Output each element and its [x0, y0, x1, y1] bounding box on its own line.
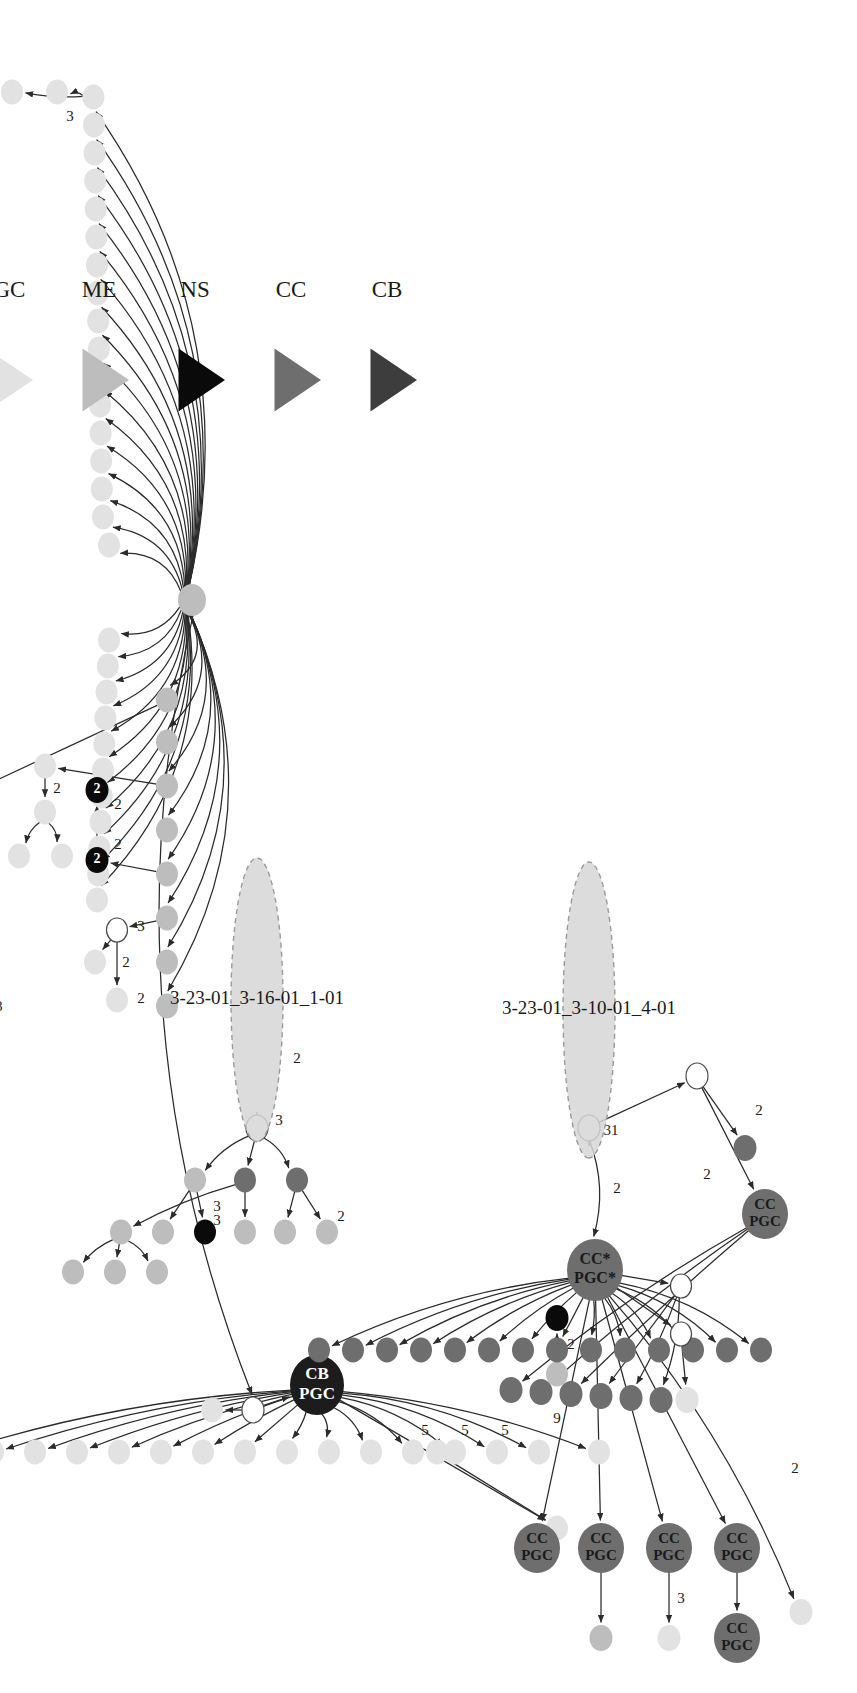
node-cs0[interactable] — [750, 1338, 772, 1363]
node-u1[interactable] — [107, 918, 128, 942]
edge-weight-label: 2 — [293, 1050, 301, 1066]
node-cb13[interactable] — [0, 1440, 4, 1465]
node-cb8[interactable] — [192, 1440, 214, 1465]
node-fa-t2[interactable] — [1, 80, 23, 105]
node-fa8[interactable] — [87, 309, 109, 334]
node-k5[interactable] — [316, 1220, 338, 1245]
node-fb10[interactable] — [86, 888, 108, 913]
node-fb4[interactable] — [93, 732, 115, 757]
node-rl4[interactable] — [530, 1379, 553, 1405]
node-cs8[interactable] — [478, 1338, 500, 1363]
node-ccpD[interactable] — [790, 1599, 813, 1625]
node-cs6[interactable] — [546, 1338, 568, 1363]
node-fa0[interactable] — [98, 533, 120, 558]
node-m3[interactable] — [156, 774, 178, 799]
node-cs3[interactable] — [648, 1338, 670, 1363]
node-k2[interactable] — [286, 1168, 308, 1193]
node-cb12[interactable] — [24, 1440, 46, 1465]
node-k10[interactable] — [110, 1220, 132, 1245]
node-fa3[interactable] — [90, 449, 112, 474]
node-ccpC[interactable] — [590, 1625, 613, 1651]
node-k3[interactable] — [234, 1168, 256, 1193]
node-cbM[interactable] — [546, 1362, 568, 1387]
node-cb0[interactable] — [528, 1440, 550, 1465]
node-k12[interactable] — [104, 1260, 126, 1285]
node-cs10[interactable] — [410, 1338, 432, 1363]
node-r2[interactable] — [734, 1135, 757, 1161]
node-k9[interactable] — [152, 1220, 174, 1245]
node-cs11[interactable] — [376, 1338, 398, 1363]
node-fa4[interactable] — [90, 421, 112, 446]
node-w1[interactable] — [201, 1398, 223, 1423]
node-k13[interactable] — [62, 1260, 84, 1285]
node-cs4[interactable] — [614, 1338, 636, 1363]
node-ccpB[interactable] — [658, 1625, 681, 1651]
node-cb11[interactable] — [66, 1440, 88, 1465]
node-m7[interactable] — [156, 950, 178, 975]
node-m2[interactable] — [156, 730, 178, 755]
node-cs7[interactable] — [512, 1338, 534, 1363]
node-fa15[interactable] — [83, 113, 105, 138]
node-k4[interactable] — [184, 1168, 206, 1193]
node-rlTop[interactable] — [676, 1387, 699, 1413]
node-p1[interactable] — [84, 950, 106, 975]
node-fa1[interactable] — [92, 505, 114, 530]
node-q3[interactable] — [8, 844, 30, 869]
node-k11[interactable] — [146, 1260, 168, 1285]
node-m5[interactable] — [156, 862, 178, 887]
node-q4[interactable] — [51, 844, 73, 869]
node-fa10[interactable] — [86, 253, 108, 278]
node-cb10[interactable] — [108, 1440, 130, 1465]
node-cb7[interactable] — [234, 1440, 256, 1465]
node-rl1[interactable] — [620, 1385, 643, 1411]
node-cs12[interactable] — [342, 1338, 364, 1363]
node-fa13[interactable] — [84, 169, 106, 194]
node-cs5[interactable] — [580, 1338, 602, 1363]
node-cb5[interactable] — [318, 1440, 340, 1465]
node-cb1[interactable] — [486, 1440, 508, 1465]
node-m1[interactable] — [156, 688, 178, 713]
node-fa14[interactable] — [84, 141, 106, 166]
node-cb3[interactable] — [402, 1440, 424, 1465]
node-fa11[interactable] — [85, 225, 107, 250]
node-q1[interactable] — [34, 754, 56, 779]
node-fa16[interactable] — [82, 85, 104, 110]
node-k7[interactable] — [234, 1220, 256, 1245]
node-r3[interactable] — [671, 1274, 692, 1298]
node-fb2[interactable] — [96, 680, 118, 705]
node-fb7[interactable] — [90, 810, 112, 835]
edge — [263, 1138, 288, 1168]
legend-swatch — [371, 349, 418, 412]
node-cbT[interactable] — [426, 1440, 448, 1465]
node-cb6[interactable] — [276, 1440, 298, 1465]
edge — [342, 1393, 527, 1448]
node-rl5[interactable] — [500, 1377, 523, 1403]
node-p2[interactable] — [106, 988, 128, 1013]
node-fb3[interactable] — [94, 706, 116, 731]
node-r4[interactable] — [671, 1322, 692, 1346]
node-m6[interactable] — [156, 906, 178, 931]
node-k6[interactable] — [274, 1220, 296, 1245]
node-rl2[interactable] — [590, 1383, 613, 1409]
node-cb9[interactable] — [150, 1440, 172, 1465]
node-cs1[interactable] — [716, 1338, 738, 1363]
node-rl0[interactable] — [650, 1387, 673, 1413]
node-me-hub[interactable] — [178, 584, 206, 616]
node-fb1[interactable] — [97, 654, 119, 679]
node-cs13[interactable] — [308, 1338, 330, 1363]
legend-item: CB — [371, 277, 418, 411]
node-q2[interactable] — [34, 800, 56, 825]
node-m4[interactable] — [156, 818, 178, 843]
node-r1[interactable] — [686, 1063, 708, 1089]
node-cs9[interactable] — [444, 1338, 466, 1363]
node-cbX[interactable] — [588, 1440, 610, 1465]
node-fa-t1[interactable] — [46, 80, 68, 105]
node-fb0[interactable] — [98, 628, 120, 653]
node-fa2[interactable] — [91, 477, 113, 502]
node-rl3[interactable] — [560, 1381, 583, 1407]
edge — [288, 1192, 295, 1218]
node-cb4[interactable] — [360, 1440, 382, 1465]
node-u2[interactable] — [242, 1397, 264, 1423]
node-fa12[interactable] — [85, 197, 107, 222]
node-cbN[interactable] — [546, 1305, 569, 1331]
